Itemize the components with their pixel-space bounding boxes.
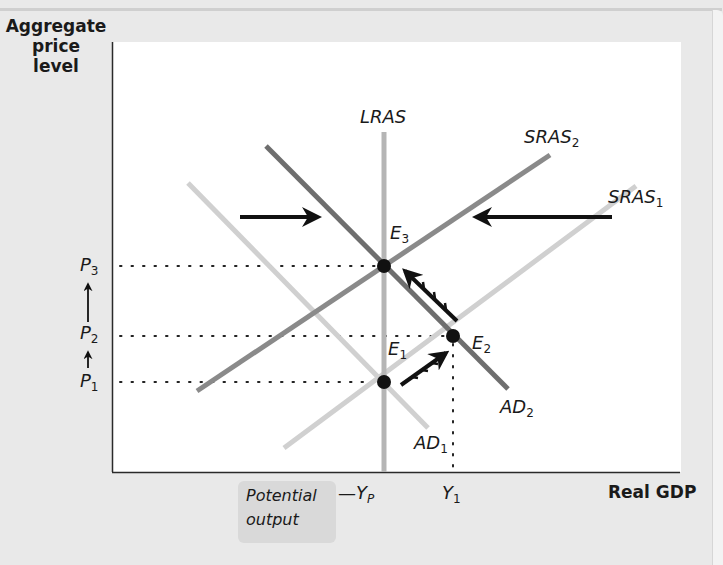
p2-tick-label: P2 [80,322,99,346]
sras1-curve [284,186,636,448]
sras1-label: SRAS1 [608,186,663,210]
y-axis-title-line2: price [4,36,108,56]
e3-point [377,259,391,273]
e2-point [446,329,460,343]
sras2-curve [197,155,550,391]
sras2-label: SRAS2 [524,126,579,150]
ad1-curve [188,183,428,428]
p3-tick-label: P3 [80,254,99,278]
y-axis-title: Aggregate price level [4,16,108,76]
yp-tick-label: —YP [338,482,374,506]
lras-label: LRAS [360,106,406,127]
e3-label: E3 [390,222,409,246]
x-axis-title: Real GDP [608,482,696,502]
e2-label: E2 [472,332,491,356]
y-axis-title-line1: Aggregate [4,16,108,36]
y-axis-title-line3: level [4,56,108,76]
e1-point [377,375,391,389]
ad1-label: AD1 [414,432,448,456]
ad2-label: AD2 [500,396,534,420]
potential-output-label: Potential output [246,484,336,532]
y1-tick-label: Y1 [442,482,461,506]
p1-tick-label: P1 [80,370,99,394]
e1-label: E1 [388,338,407,362]
